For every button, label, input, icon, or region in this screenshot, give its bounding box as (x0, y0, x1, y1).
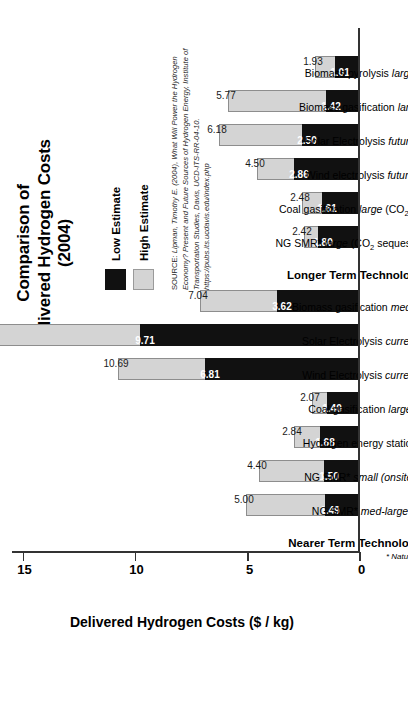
bar-value-high: 4.50 (245, 158, 264, 169)
bar-value-high: 10.69 (103, 358, 128, 369)
category-label: NG SMR* large (CO2 sequestered) (275, 237, 408, 252)
bar-value-low: 3.62 (272, 301, 291, 312)
category-label: Biomass gasification large (299, 101, 408, 113)
group-header-nearer: Nearer Term Technologies (10, 522, 358, 552)
bar-slot[interactable]: 28.199.71Solar Electrolysis current (10, 318, 358, 352)
bar-slot[interactable]: 6.182.50Solar Electrolysis future (10, 118, 358, 152)
x-axis-tick-label: 5 (240, 562, 258, 577)
bar-segment-high[interactable]: 28.19 (0, 324, 140, 346)
bar-value-high: 1.93 (303, 56, 322, 67)
x-axis-tick-label: 0 (353, 562, 371, 577)
bar-slot[interactable]: 2.841.68Hydrogen energy station (10, 420, 358, 454)
bar-value-high: 2.48 (291, 192, 310, 203)
bar-value-low: 6.81 (200, 369, 219, 380)
category-label: Solar Electrolysis future (305, 135, 408, 147)
bar-value-high: 2.84 (283, 426, 302, 437)
bar-value-high: 2.07 (300, 392, 319, 403)
group-header-label: Longer Term Technologies (287, 269, 408, 281)
bar-value-high: 5.00 (234, 494, 253, 505)
bar-value-high: 5.77 (217, 90, 236, 101)
plot-area: Nearer Term Technologies5.001.49NG SMR* … (8, 28, 360, 552)
bar-slot[interactable]: 2.481.61Coal gasification large (CO2 seq… (10, 186, 358, 220)
category-label: Wind electrolysis future (306, 169, 408, 181)
category-label: Biomass gasification medium (292, 301, 408, 313)
bar-group-container: Nearer Term Technologies5.001.49NG SMR* … (10, 28, 358, 552)
bar-slot[interactable]: 5.771.42Biomass gasification large (10, 84, 358, 118)
x-axis-tick-label: 10 (128, 562, 146, 577)
bar-value-high: 7.04 (188, 290, 207, 301)
x-axis-tick-label: 15 (16, 562, 34, 577)
bar-slot[interactable]: 2.071.40Coal gasification large (10, 386, 358, 420)
category-label: Wind Electrolysis current (302, 369, 408, 381)
group-header-label: Nearer Term Technologies (288, 537, 408, 549)
bar-value-high: 2.42 (292, 226, 311, 237)
bar-segment-high[interactable]: 10.69 (118, 358, 205, 380)
bar-slot[interactable]: 5.001.49NG SMR* med-large (10, 488, 358, 522)
bar-value-high: 6.18 (208, 124, 227, 135)
x-axis-tick (247, 552, 249, 561)
bar-slot[interactable]: 2.421.80NG SMR* large (CO2 sequestered) (10, 220, 358, 254)
footnote: * Natural Gas Steam Methane Reforming (386, 552, 408, 561)
bar-segment-high[interactable]: 6.18 (219, 124, 302, 146)
bar-value-high: 4.40 (247, 460, 266, 471)
chart-canvas: Comparison of Delivered Hydrogen Costs (… (0, 0, 408, 720)
category-label: NG SMR* small (onsite) (304, 471, 408, 483)
category-label: Solar Electrolysis current (302, 335, 408, 347)
bar-segment-high[interactable]: 4.50 (257, 158, 294, 180)
bar-slot[interactable]: 10.696.81Wind Electrolysis current (10, 352, 358, 386)
bar-slot[interactable]: 4.502.86Wind electrolysis future (10, 152, 358, 186)
x-axis-line (358, 28, 360, 552)
bar-slot[interactable]: 7.043.62Biomass gasification medium (10, 284, 358, 318)
category-label: Biomass pyrolysis large (305, 67, 408, 79)
bar-segment-high[interactable]: 7.04 (200, 290, 277, 312)
value-axis-line (12, 551, 360, 553)
bar-value-low: 9.71 (135, 335, 154, 346)
bar-slot[interactable]: 1.931.01Biomass pyrolysis large (10, 50, 358, 84)
x-axis-tick (359, 552, 361, 561)
category-label: Coal gasification large (CO2 seq.) (279, 203, 408, 218)
category-label: Hydrogen energy station (303, 437, 408, 449)
group-header-longer: Longer Term Technologies (10, 254, 358, 284)
bar-slot[interactable]: 4.401.50NG SMR* small (onsite) (10, 454, 358, 488)
x-axis-title: Delivered Hydrogen Costs ($ / kg) (8, 614, 356, 630)
x-axis-tick (135, 552, 137, 561)
figure-stage: Comparison of Delivered Hydrogen Costs (… (0, 0, 408, 720)
x-axis-tick (23, 552, 25, 561)
